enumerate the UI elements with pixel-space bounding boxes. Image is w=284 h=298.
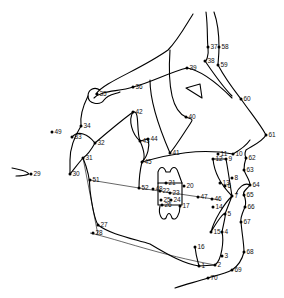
landmark-dot <box>92 232 95 235</box>
landmark-dot <box>240 221 243 224</box>
landmark-dot <box>207 46 210 49</box>
landmark-label: 27 <box>101 221 109 228</box>
landmark-dot <box>69 173 72 176</box>
landmark-62: 62 <box>245 154 257 161</box>
landmark-label: 40 <box>189 113 197 120</box>
landmark-23: 23 <box>169 189 181 196</box>
landmark-label: 39 <box>190 64 198 71</box>
landmark-label: 59 <box>221 61 229 68</box>
landmark-29: 29 <box>30 170 42 177</box>
landmark-label: 47 <box>201 193 209 200</box>
landmark-dot <box>186 67 189 70</box>
landmark-label: 49 <box>55 128 63 135</box>
landmark-dot <box>185 116 188 119</box>
landmark-label: 69 <box>235 266 243 273</box>
landmark-dot <box>231 195 234 198</box>
landmark-20: 20 <box>183 182 195 189</box>
landmark-label: 64 <box>253 181 261 188</box>
landmark-label: 42 <box>136 108 144 115</box>
landmark-dot <box>197 196 200 199</box>
landmark-dot <box>207 277 210 280</box>
landmark-dot <box>71 136 74 139</box>
landmark-label: 52 <box>142 184 150 191</box>
landmark-dot <box>243 194 246 197</box>
landmark-label: 5 <box>228 210 232 217</box>
landmark-45: 45 <box>141 158 153 165</box>
landmark-label: 67 <box>244 218 252 225</box>
landmark-46: 46 <box>211 195 223 202</box>
landmark-label: 30 <box>73 170 81 177</box>
landmark-21: 21 <box>165 179 177 186</box>
landmark-dot <box>147 138 150 141</box>
landmark-42: 42 <box>132 108 144 115</box>
landmark-37: 37 <box>207 43 219 50</box>
landmark-dot <box>138 187 141 190</box>
landmark-label: 35 <box>100 90 108 97</box>
landmark-65: 65 <box>243 191 255 198</box>
landmark-label: 16 <box>198 243 206 250</box>
landmark-38: 38 <box>204 57 216 64</box>
landmark-69: 69 <box>231 266 243 273</box>
landmark-label: 32 <box>98 139 106 146</box>
landmark-59: 59 <box>217 61 229 68</box>
landmark-dot <box>194 246 197 249</box>
landmark-dot <box>212 206 215 209</box>
landmark-8: 8 <box>231 174 239 181</box>
landmark-34: 34 <box>80 122 92 129</box>
landmark-dot <box>231 269 234 272</box>
landmark-label: 2 <box>218 261 222 268</box>
landmark-68: 68 <box>243 248 255 255</box>
landmark-dot <box>243 251 246 254</box>
landmark-label: 41 <box>173 149 181 156</box>
landmark-dot <box>141 161 144 164</box>
landmark-label: 62 <box>249 154 257 161</box>
landmark-label: 8 <box>235 174 239 181</box>
landmark-dot <box>245 157 248 160</box>
landmark-dot <box>204 60 207 63</box>
landmark-dot <box>94 142 97 145</box>
landmark-label: 20 <box>187 182 195 189</box>
landmark-label: 63 <box>247 166 255 173</box>
landmark-7: 7 <box>231 192 239 199</box>
landmark-28: 28 <box>92 229 104 236</box>
landmark-label: 15 <box>214 228 222 235</box>
landmark-label: 9 <box>229 155 233 162</box>
landmark-label: 58 <box>222 43 230 50</box>
landmark-33: 33 <box>71 133 83 140</box>
landmark-14: 14 <box>212 203 224 210</box>
landmark-label: 1 <box>202 262 206 269</box>
landmark-dot <box>179 205 182 208</box>
landmark-39: 39 <box>186 64 198 71</box>
landmark-label: 36 <box>136 83 144 90</box>
landmark-dot <box>210 231 213 234</box>
landmark-dot <box>231 177 234 180</box>
landmark-dot <box>217 64 220 67</box>
landmark-label: 17 <box>183 202 191 209</box>
landmark-52: 52 <box>138 184 150 191</box>
landmark-16: 16 <box>194 243 206 250</box>
landmark-35: 35 <box>96 90 108 97</box>
landmark-30: 30 <box>69 170 81 177</box>
landmark-60: 60 <box>240 95 252 102</box>
landmark-2: 2 <box>214 261 222 268</box>
landmark-dot <box>218 46 221 49</box>
landmark-label: 34 <box>84 122 92 129</box>
landmark-dot <box>139 140 142 143</box>
landmark-dot <box>30 173 33 176</box>
landmark-dot <box>165 182 168 185</box>
landmark-3: 3 <box>221 252 229 259</box>
landmark-label: 65 <box>247 191 255 198</box>
landmark-label: 44 <box>151 135 159 142</box>
landmark-dot <box>211 198 214 201</box>
landmark-36: 36 <box>132 83 144 90</box>
landmark-dot <box>51 131 54 134</box>
landmark-label: 51 <box>93 176 101 183</box>
landmark-49: 49 <box>51 128 63 135</box>
landmark-67: 67 <box>240 218 252 225</box>
landmark-dot <box>97 224 100 227</box>
landmark-27: 27 <box>97 221 109 228</box>
landmark-31: 31 <box>82 154 94 161</box>
landmark-51: 51 <box>89 176 101 183</box>
landmark-63: 63 <box>243 166 255 173</box>
landmark-label: 28 <box>96 229 104 236</box>
